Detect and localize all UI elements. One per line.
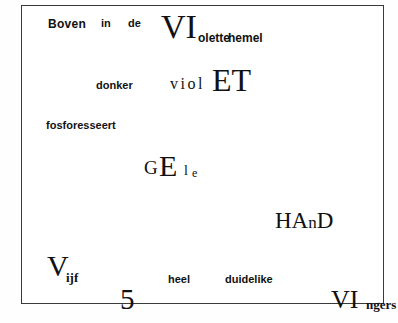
word-boven: Boven bbox=[48, 18, 86, 30]
word-hand-d: D bbox=[317, 208, 334, 233]
word-hand-ha: HA bbox=[275, 208, 308, 233]
word-heel: heel bbox=[168, 274, 190, 285]
word-et-capitals: ET bbox=[212, 64, 251, 96]
word-hemel: hemel bbox=[228, 32, 263, 44]
word-in: in bbox=[101, 18, 111, 29]
word-ijf: ijf bbox=[66, 271, 78, 284]
letter-e-lowercase: e bbox=[192, 167, 197, 179]
word-de: de bbox=[128, 18, 141, 29]
letter-g-capital: G bbox=[144, 158, 158, 177]
word-duidelike: duidelike bbox=[225, 274, 273, 285]
letter-l-lowercase: l bbox=[184, 164, 188, 178]
word-olette: olette bbox=[198, 32, 230, 44]
word-viol: viol bbox=[170, 76, 205, 92]
poem-frame-border: Boven in de VI olette hemel donker viol … bbox=[21, 5, 384, 304]
poem-page: Boven in de VI olette hemel donker viol … bbox=[0, 0, 398, 323]
word-hand: HAnD bbox=[275, 209, 333, 232]
word-hand-n: n bbox=[308, 213, 317, 232]
numeral-five: 5 bbox=[120, 285, 135, 314]
word-vi-capitals-second: VI bbox=[331, 287, 358, 313]
word-donker: donker bbox=[96, 80, 133, 91]
word-ngers: ngers bbox=[366, 298, 396, 311]
word-vi-capitals: VI bbox=[161, 10, 197, 44]
letter-e-capital: E bbox=[159, 151, 177, 181]
word-fosforesseert: fosforesseert bbox=[46, 120, 116, 131]
